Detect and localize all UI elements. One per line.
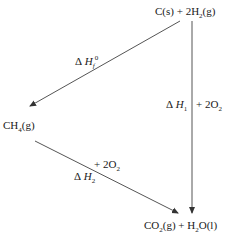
intermediate-state: (g) [22, 119, 35, 131]
formation-enthalpy-label: Δ Hf0 [75, 55, 98, 67]
delta-symbol: Δ [166, 98, 173, 110]
products-plus-h2: (g) + H [163, 219, 195, 231]
combustion-reagent-label: + 2O2 [94, 158, 120, 170]
products-label: CO2(g) + H2O(l) [144, 219, 217, 231]
enthalpy-subscript: 2 [92, 177, 96, 185]
enthalpy-symbol: H [176, 98, 184, 110]
reactants-state: (g) [203, 5, 216, 17]
arrow-layer [0, 0, 226, 236]
enthalpy-symbol: H [85, 55, 93, 67]
reagent-text: + 2O [94, 158, 116, 170]
combustion-enthalpy-label: Δ H2 [74, 170, 95, 182]
reagent-subscript: 2 [218, 105, 222, 113]
combustion-arrow [35, 141, 178, 213]
direct-enthalpy-label: Δ H1 [166, 98, 187, 110]
reagent-subscript: 2 [116, 165, 120, 173]
products-water: O(l) [199, 219, 217, 231]
enthalpy-symbol: H [84, 170, 92, 182]
enthalpy-subscript: f [93, 62, 95, 70]
reagent-text: + 2O [196, 98, 218, 110]
reactants-label: C(s) + 2H2(g) [155, 5, 215, 17]
delta-symbol: Δ [75, 55, 82, 67]
formation-arrow [30, 21, 180, 106]
reactants-formula: C(s) + 2H [155, 5, 199, 17]
intermediate-label: CH4(g) [3, 119, 35, 131]
direct-reagent-label: + 2O2 [196, 98, 222, 110]
products-co2: CO [144, 219, 159, 231]
delta-symbol: Δ [74, 170, 81, 182]
standard-state-superscript: 0 [95, 54, 99, 62]
enthalpy-subscript: 1 [184, 105, 188, 113]
intermediate-formula: CH [3, 119, 18, 131]
